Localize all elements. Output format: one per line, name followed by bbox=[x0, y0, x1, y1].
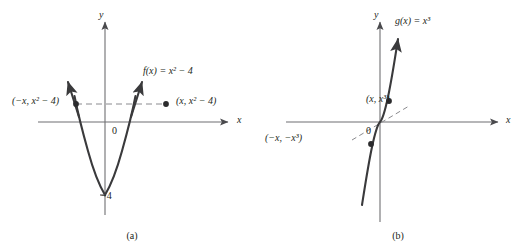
caption-a: (a) bbox=[102, 230, 162, 241]
function-label-a: f(x) = x² − 4 bbox=[143, 66, 193, 76]
point-label-left-a: (−x, x² − 4) bbox=[12, 96, 59, 106]
point-label-right-a: (x, x² − 4) bbox=[176, 96, 216, 106]
y-axis-label-b: y bbox=[374, 10, 378, 20]
point-label-left-b: (−x, −x³) bbox=[265, 133, 302, 143]
point-marker-left-a bbox=[73, 101, 79, 107]
panel-b-plot bbox=[264, 0, 528, 252]
panel-b: g(x) = x³ (x, x³) (−x, −x³) 0 x y (b) bbox=[264, 0, 528, 252]
origin-label-b: 0 bbox=[366, 126, 371, 136]
panel-a: f(x) = x² − 4 (−x, x² − 4) (x, x² − 4) 0… bbox=[0, 0, 264, 252]
vertex-value-label-a: −4 bbox=[101, 191, 112, 201]
origin-label-a: 0 bbox=[112, 126, 117, 136]
caption-b: (b) bbox=[368, 230, 428, 241]
panel-a-plot bbox=[0, 0, 264, 252]
point-label-right-b: (x, x³) bbox=[366, 94, 390, 104]
point-marker-right-a bbox=[163, 101, 169, 107]
x-axis-label-a: x bbox=[237, 115, 241, 125]
figure-container: f(x) = x² − 4 (−x, x² − 4) (x, x² − 4) 0… bbox=[0, 0, 528, 252]
point-marker-left-b bbox=[368, 141, 374, 147]
x-axis-label-b: x bbox=[506, 115, 510, 125]
y-axis-label-a: y bbox=[99, 10, 103, 20]
function-label-b: g(x) = x³ bbox=[395, 16, 430, 26]
